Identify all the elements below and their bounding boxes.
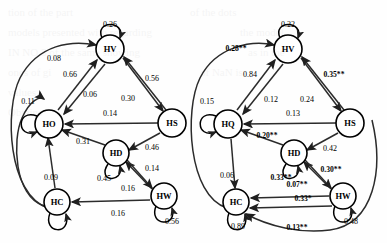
edge-label-hw-hc-left: 0.16 <box>111 209 125 218</box>
edge-hs-ho <box>65 123 158 124</box>
loop-label-hw-right: 0.48 <box>344 217 358 226</box>
edge-label-hs-hd-right: 0.42 <box>323 144 337 153</box>
edge-label-hd-hw-left: 0.16 <box>121 184 135 193</box>
node-label-hc-right: HC <box>230 197 243 207</box>
edge-label-hw-hc2-right: 0.33* <box>294 194 311 203</box>
node-label-hs-right: HS <box>344 118 356 128</box>
node-label-hc-left: HC <box>51 197 64 207</box>
node-label-hv-left: HV <box>104 44 118 54</box>
edge-label-hv-ho-left: 0.06 <box>83 90 97 99</box>
loop-label-hq-right: 0.15 <box>200 97 214 106</box>
edge-label-ho-hv-left: 0.66 <box>63 70 77 79</box>
path-diagram-svg: HV HO HS HD HC HW 0.26 0.11 0.45 0.56 0.… <box>0 0 387 243</box>
edge-label-hw-hc-right: 0.07** <box>287 180 308 189</box>
node-label-hw-right: HW <box>335 191 351 201</box>
edge-label-hs-hq-right: 0.13 <box>286 109 300 118</box>
edge-hw-hc <box>72 200 150 202</box>
edge-label-hc-ho-left: 0.09 <box>44 173 58 182</box>
edge-ho-hv <box>58 60 97 110</box>
loop-label-hv-left: 0.26 <box>103 20 117 29</box>
edge-hq-hc-right <box>231 139 235 188</box>
edge-label-hv-hs-left: 0.56 <box>145 74 159 83</box>
edge-label-hd-hq-right: 0.20** <box>257 131 278 140</box>
node-label-hw-left: HW <box>156 191 172 201</box>
edge-label-hw-hc3-right: 0.13** <box>287 223 308 232</box>
edge-hs-hq-right <box>244 123 336 124</box>
edge-hw-hc-lower-right <box>250 206 332 208</box>
loop-label-ho-left: 0.11 <box>21 97 35 106</box>
node-label-hv-right: HV <box>282 44 296 54</box>
node-label-ho-left: HO <box>42 119 56 129</box>
edge-label-hs-hd-left: 0.46 <box>145 143 159 152</box>
edge-label-hs-hv-left: 0.30 <box>121 94 135 103</box>
edge-label-hw-hd-left: 0.14 <box>145 164 159 173</box>
loop-label-hc-right: 0.89 <box>231 222 245 231</box>
loop-label-hv-right: 0.22 <box>281 20 295 29</box>
edge-label-hq-hv-right: 0.84 <box>243 70 257 79</box>
node-label-hd-right: HD <box>288 148 301 158</box>
edge-label-hv-hq-right: 0.12 <box>264 95 278 104</box>
edge-hw-hc-right <box>251 196 329 198</box>
node-label-hq-right: HQ <box>221 119 235 129</box>
figure-canvas: tion of the part of the dots models pres… <box>0 0 387 243</box>
node-label-hd-left: HD <box>110 148 123 158</box>
loop-label-hw-left: 0.56 <box>165 217 179 226</box>
edge-label-hs-ho-left: 0.14 <box>103 109 117 118</box>
edge-label-hd-ho-left: 0.31 <box>76 137 90 146</box>
edge-label-hw-hd-right: 0.30** <box>321 165 342 174</box>
edge-label-hv-hs-right: 0.35** <box>324 70 345 79</box>
edge-hv-hs <box>123 58 163 111</box>
edge-label-hc-hv-left: 0.08 <box>47 54 61 63</box>
edge-label-hs-hv-right: 0.24 <box>300 95 314 104</box>
edge-label-hc-hv-right: 0.28** <box>226 44 247 53</box>
loop-label-hd-left: 0.45 <box>97 174 111 183</box>
edge-label-hq-hc-right: 0.06 <box>220 171 234 180</box>
node-label-hs-left: HS <box>166 118 178 128</box>
